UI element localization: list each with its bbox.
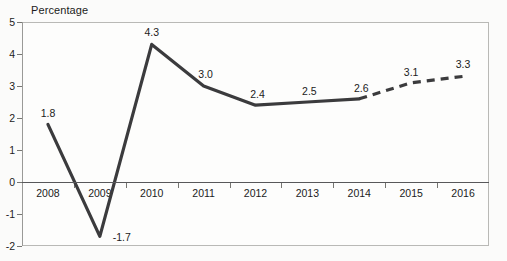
data-point-label: 3.1 xyxy=(404,67,419,78)
series-layer xyxy=(0,0,507,261)
data-point-label: 3.3 xyxy=(456,59,471,70)
line-series-forecast-dashed xyxy=(359,76,463,98)
data-point-label: 1.8 xyxy=(41,108,56,119)
data-point-label: -1.7 xyxy=(113,232,131,243)
data-point-label: 2.5 xyxy=(302,86,317,97)
data-point-label: 4.3 xyxy=(144,27,159,38)
chart-container: Percentage 543210-1-2 200820092010201120… xyxy=(0,0,507,261)
data-point-label: 3.0 xyxy=(198,69,213,80)
zero-baseline xyxy=(22,182,489,183)
data-point-label: 2.4 xyxy=(250,89,265,100)
data-point-label: 2.6 xyxy=(354,83,369,94)
